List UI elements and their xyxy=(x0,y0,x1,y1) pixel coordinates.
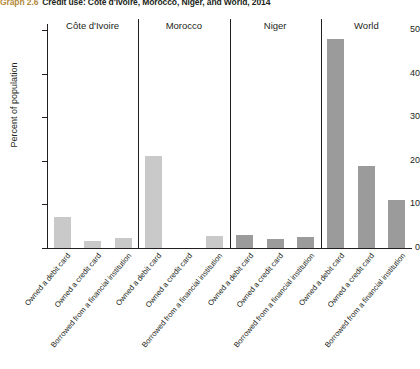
plot-area xyxy=(47,30,412,248)
bar xyxy=(115,238,132,248)
bar xyxy=(297,237,314,248)
bar xyxy=(267,239,284,248)
bars-container xyxy=(47,30,412,248)
x-axis-labels: Owned a debit cardOwned a credit cardBor… xyxy=(0,248,420,369)
y-axis-label: Percent of population xyxy=(9,25,19,185)
bar xyxy=(206,236,223,248)
bar xyxy=(358,166,375,248)
bar xyxy=(54,217,71,248)
bar xyxy=(145,156,162,248)
bar-chart: 01020304050 Percent of population Côte d… xyxy=(0,0,420,369)
bar xyxy=(327,39,344,248)
bar xyxy=(236,235,253,248)
bar xyxy=(388,200,405,248)
